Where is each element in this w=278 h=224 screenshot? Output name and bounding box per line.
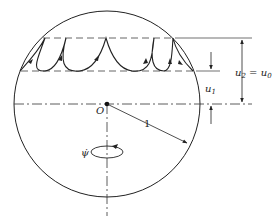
center-label: O xyxy=(96,105,104,116)
precession-arrow-icon xyxy=(112,144,118,149)
sphere-diagram: O 1 u2 = u0 u1 ψ̇ xyxy=(0,0,278,224)
precession-rate-label: ψ̇ xyxy=(81,147,89,158)
radius-label: 1 xyxy=(144,118,150,129)
u2-label: u2 = u0 xyxy=(235,67,272,80)
u1-label: u1 xyxy=(205,83,216,96)
cusped-trajectory xyxy=(20,38,193,71)
